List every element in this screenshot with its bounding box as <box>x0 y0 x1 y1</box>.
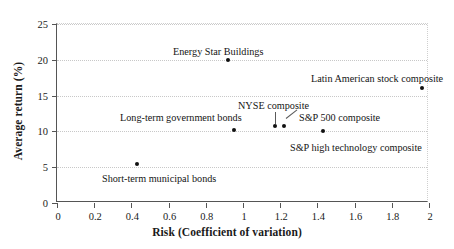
xtick-0: 0 <box>57 203 58 208</box>
label-sp-500-composite: S&P 500 composite <box>299 112 380 124</box>
xtick-label-0-2: 0.2 <box>89 210 102 224</box>
xtick-1-2: 1.2 <box>280 203 281 208</box>
label-short-term-municipal-bonds: Short-term municipal bonds <box>102 173 216 185</box>
ytick-label-25: 25 <box>38 17 49 32</box>
ytick-10: 10 <box>52 131 57 132</box>
data-point-long-term-government-bonds <box>232 128 236 132</box>
gridline-20 <box>57 60 427 61</box>
xtick-1-8: 1.8 <box>392 203 393 208</box>
xtick-label-0: 0 <box>55 210 60 224</box>
gridline-15 <box>57 96 427 97</box>
label-sp-high-technology-composite: S&P high technology composite <box>290 142 422 154</box>
xtick-label-0-4: 0.4 <box>126 210 139 224</box>
label-energy-star-buildings: Energy Star Buildings <box>173 46 263 58</box>
data-point-short-term-municipal-bonds <box>135 162 139 166</box>
data-point-nyse-composite <box>273 124 277 128</box>
ytick-25: 25 <box>52 24 57 25</box>
xtick-2: 2 <box>429 203 430 208</box>
xtick-label-0-6: 0.6 <box>163 210 176 224</box>
xtick-0-2: 0.2 <box>94 203 95 208</box>
ytick-label-15: 15 <box>38 89 49 104</box>
gridline-10 <box>57 131 427 132</box>
xtick-0-8: 0.8 <box>206 203 207 208</box>
gridline-5 <box>57 167 427 168</box>
xtick-label-1-6: 1.6 <box>349 210 362 224</box>
xtick-1: 1 <box>243 203 244 208</box>
label-long-term-government-bonds: Long-term government bonds <box>120 112 242 124</box>
data-point-energy-star-buildings <box>226 58 230 62</box>
xtick-0-6: 0.6 <box>169 203 170 208</box>
data-point-sp-high-technology-composite <box>321 129 325 133</box>
xtick-0-4: 0.4 <box>131 203 132 208</box>
y-axis-title: Average return (%) <box>12 41 24 181</box>
data-point-sp-500-composite <box>282 124 286 128</box>
xtick-1-6: 1.6 <box>355 203 356 208</box>
plot-area: 25 20 15 10 5 0 0 0.2 0.4 0.6 0.8 <box>56 23 428 202</box>
ytick-label-20: 20 <box>38 53 49 68</box>
xtick-label-1-2: 1.2 <box>275 210 288 224</box>
gridline-25 <box>57 24 427 25</box>
xtick-label-1-8: 1.8 <box>386 210 399 224</box>
leader-line-nyse <box>275 112 276 124</box>
ytick-label-10: 10 <box>38 124 49 139</box>
ytick-20: 20 <box>52 60 57 61</box>
label-latin-american-stock-composite: Latin American stock composite <box>311 73 443 85</box>
label-nyse-composite: NYSE composite <box>238 100 309 112</box>
ytick-label-0: 0 <box>43 196 48 211</box>
ytick-15: 15 <box>52 96 57 97</box>
ytick-5: 5 <box>52 167 57 168</box>
x-axis-title: Risk (Coefficient of variation) <box>0 226 454 238</box>
data-point-latin-american-stock-composite <box>420 86 424 90</box>
ytick-label-5: 5 <box>43 160 48 175</box>
xtick-label-1: 1 <box>241 210 246 224</box>
scatter-plot-figure: 25 20 15 10 5 0 0 0.2 0.4 0.6 0.8 <box>0 0 454 249</box>
xtick-label-2: 2 <box>427 210 432 224</box>
xtick-1-4: 1.4 <box>317 203 318 208</box>
xtick-label-1-4: 1.4 <box>312 210 325 224</box>
xtick-label-0-8: 0.8 <box>200 210 213 224</box>
